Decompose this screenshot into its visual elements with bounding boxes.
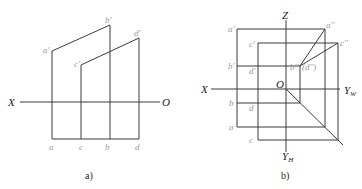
label-c-dprime: c'' <box>340 38 349 48</box>
label-b-dprime: b'' <box>290 62 299 72</box>
caption-b: b) <box>281 170 289 182</box>
label-c-prime-b: c' <box>249 39 256 49</box>
label-b-b: b <box>229 98 234 108</box>
caption-a: a) <box>85 170 93 182</box>
projection-figure: X O a' b' c' d' a c b d a) Z <box>0 0 362 189</box>
origin-label: O <box>276 78 284 90</box>
yw-axis-label: YW <box>344 84 357 98</box>
o-axis-label: O <box>162 96 170 108</box>
yh-axis-label: YH <box>282 150 294 164</box>
label-a-dprime: a'' <box>326 20 335 30</box>
label-b: b <box>105 142 110 152</box>
line-b-dprime-a-dprime <box>300 29 325 66</box>
label-c-prime: c' <box>74 59 81 69</box>
label-c: c <box>79 142 83 152</box>
label-b-prime: b' <box>105 15 113 25</box>
label-b-prime-b: b' <box>228 61 236 71</box>
panel-a: X O a' b' c' d' a c b d a) <box>7 15 170 182</box>
label-c-b: c <box>249 135 253 145</box>
label-d-dprime: (d'') <box>302 62 316 72</box>
label-a: a <box>49 142 54 152</box>
label-d-b: d <box>249 103 254 113</box>
label-a-prime-b: a' <box>228 24 236 34</box>
x-axis-label-b: X <box>200 83 209 95</box>
diagonal-45-line <box>286 89 343 145</box>
x-axis-label: X <box>7 96 16 108</box>
panel-b: Z X O YW YH a' c' b' d' b d a c a'' c'' … <box>200 9 357 182</box>
label-d-prime-b: d' <box>249 66 257 76</box>
line-a-prime-b-prime <box>52 25 110 51</box>
label-d: d <box>135 142 140 152</box>
label-a-prime: a' <box>43 45 51 55</box>
label-d-prime: d' <box>134 28 142 38</box>
z-axis-label: Z <box>282 9 289 21</box>
label-a-b: a <box>229 122 234 132</box>
